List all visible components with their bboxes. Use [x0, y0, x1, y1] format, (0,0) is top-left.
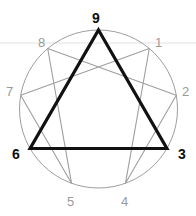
point-label-1: 1	[155, 36, 162, 49]
point-label-8: 8	[38, 36, 45, 49]
point-label-6: 6	[12, 147, 20, 161]
point-label-2: 2	[182, 85, 189, 98]
hexad-path-1-4-2-8-5-7	[21, 49, 177, 184]
point-label-3: 3	[178, 147, 186, 161]
enneagram-figure	[0, 0, 196, 216]
enneagram-canvas: 9 1 2 3 4 5 6 7 8	[0, 0, 196, 216]
enneagram-circle	[20, 30, 178, 188]
point-label-5: 5	[67, 195, 74, 208]
inner-triangle-9-3-6	[30, 30, 167, 149]
point-label-4: 4	[121, 195, 128, 208]
point-label-9: 9	[92, 11, 100, 25]
point-label-7: 7	[6, 85, 13, 98]
